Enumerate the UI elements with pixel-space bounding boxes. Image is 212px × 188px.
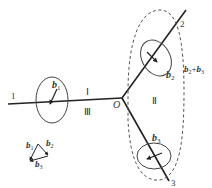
line-label-1: 1 — [11, 91, 16, 101]
boundary-line-3 — [122, 98, 169, 181]
triangle-label-b2: b2 — [46, 138, 54, 149]
label-b2: b2 — [166, 69, 175, 82]
dislocation-junction-diagram: 1 2 3 O Ⅰ Ⅲ Ⅱ b1 b2 b3 b2+b3 b1 b2 b3 — [0, 0, 212, 188]
junction-label-O: O — [113, 99, 120, 110]
line-label-3: 3 — [171, 178, 176, 188]
triangle-label-b3: b3 — [35, 159, 43, 170]
region-label-I: Ⅰ — [86, 86, 89, 97]
label-b2-plus-b3: b2+b3 — [184, 64, 204, 75]
label-b1: b1 — [52, 79, 61, 92]
triangle-label-b1: b1 — [26, 140, 34, 151]
region-label-II: Ⅱ — [152, 95, 157, 106]
region-label-III: Ⅲ — [84, 106, 91, 117]
line-label-2: 2 — [180, 19, 185, 29]
boundary-line-1 — [8, 98, 122, 104]
